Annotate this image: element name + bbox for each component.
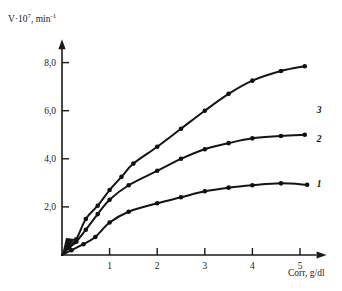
y-axis-arrow [58, 39, 65, 49]
data-point-marker [302, 132, 307, 137]
data-point-marker [179, 157, 184, 162]
data-markers-group [67, 64, 310, 253]
x-axis-arrow [317, 251, 327, 258]
data-point-marker [226, 92, 231, 97]
data-point-marker [179, 195, 184, 200]
curve-label-3: 3 [316, 105, 322, 115]
data-point-marker [84, 227, 89, 232]
y-axis-tick-label: 4,0 [44, 154, 56, 164]
data-point-marker [93, 235, 98, 240]
axis-titles-group: V·107, min-1Corr, g/dl [8, 12, 325, 278]
data-point-marker [155, 169, 160, 174]
data-point-marker [279, 134, 284, 139]
data-point-marker [305, 182, 310, 187]
data-point-marker [226, 141, 231, 146]
data-point-marker [126, 209, 131, 214]
data-point-marker [84, 217, 89, 222]
data-point-marker [250, 136, 255, 141]
data-point-marker [179, 126, 184, 131]
data-point-marker [203, 147, 208, 152]
data-curve-2 [62, 135, 305, 255]
data-point-marker [107, 197, 112, 202]
data-point-marker [279, 181, 284, 186]
x-axis-tick-label: 4 [250, 261, 255, 271]
y-axis-tick-label: 6,0 [44, 106, 56, 116]
data-point-marker [226, 185, 231, 190]
data-point-marker [81, 242, 86, 247]
curve-labels-group: 321 [316, 105, 322, 190]
data-point-marker [119, 175, 124, 180]
y-axis-tick-label: 8,0 [44, 58, 56, 68]
x-axis-tick-label: 2 [155, 261, 160, 271]
curve-label-2: 2 [316, 134, 322, 144]
x-axis-tick-label: 3 [202, 261, 207, 271]
data-point-marker [69, 248, 74, 253]
data-point-marker [95, 212, 100, 217]
figure-container: 2,04,06,08,012345 321 V·107, min-1Corr, … [0, 0, 342, 291]
data-point-marker [155, 144, 160, 149]
curves-group [62, 66, 307, 255]
data-point-marker [95, 203, 100, 208]
data-point-marker [131, 161, 136, 166]
curve-label-1: 1 [317, 179, 322, 189]
x-axis-tick-label: 1 [107, 261, 112, 271]
data-point-marker [126, 183, 131, 188]
data-point-marker [279, 69, 284, 74]
y-axis-tick-label: 2,0 [44, 202, 56, 212]
x-axis-title: Corr, g/dl [288, 268, 325, 278]
data-curve-3 [62, 66, 305, 255]
data-point-marker [250, 78, 255, 83]
data-point-marker [203, 189, 208, 194]
data-point-marker [155, 201, 160, 206]
data-point-marker [74, 239, 79, 244]
data-point-marker [107, 220, 112, 225]
tick-labels-group: 2,04,06,08,012345 [44, 58, 303, 271]
y-axis-title: V·107, min-1 [8, 12, 56, 24]
data-point-marker [203, 108, 208, 113]
data-point-marker [302, 64, 307, 69]
data-curve-1 [62, 183, 307, 255]
chart-plot: 2,04,06,08,012345 321 V·107, min-1Corr, … [0, 0, 342, 291]
axes-group [58, 39, 326, 258]
data-point-marker [250, 183, 255, 188]
data-point-marker [107, 188, 112, 193]
